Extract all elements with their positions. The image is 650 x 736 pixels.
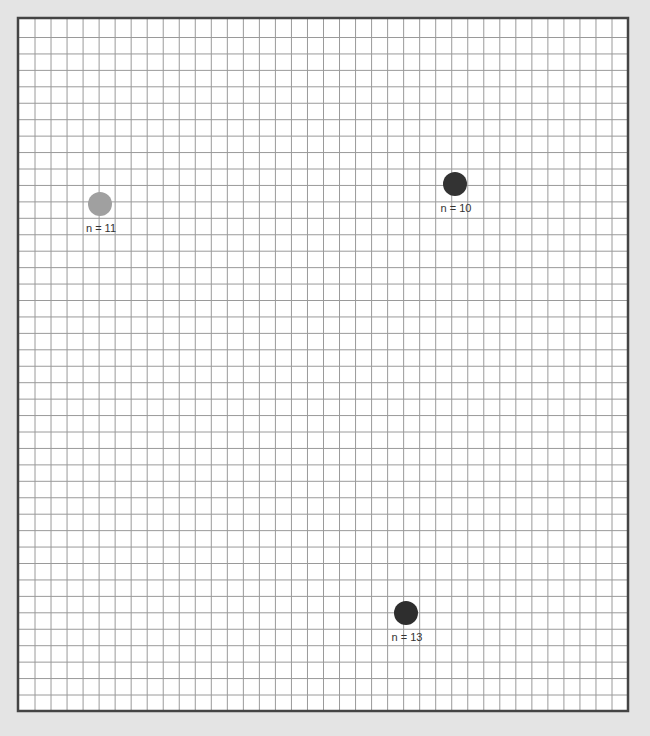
marker-dot[interactable] (394, 601, 418, 625)
marker-label: n = 11 (86, 222, 116, 234)
marker-dot[interactable] (443, 172, 467, 196)
marker-label: n = 13 (392, 631, 423, 643)
marker-dot[interactable] (88, 192, 112, 216)
marker-label: n = 10 (441, 202, 472, 214)
grid-board: n = 11 n = 10 n = 13 (0, 0, 650, 736)
